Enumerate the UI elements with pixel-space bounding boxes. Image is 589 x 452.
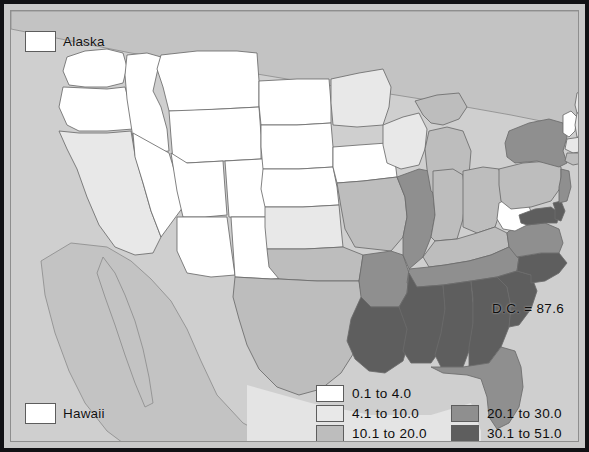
hawaii-swatch: [25, 403, 56, 424]
legend-item-1: 4.1 to 10.0: [316, 405, 427, 422]
state-NE: [261, 167, 339, 207]
legend-swatch-2: [316, 425, 344, 442]
state-PA: [499, 161, 561, 209]
state-NY: [505, 119, 567, 167]
us-choropleth-map: [11, 11, 579, 442]
state-OH: [463, 167, 503, 233]
map-figure-frame: Alaska Hawaii D.C. = 87.6 0.1 to 4.0 4.1…: [0, 0, 589, 452]
state-DE: [553, 201, 565, 221]
legend-swatch-0: [316, 385, 344, 402]
state-OR: [59, 87, 133, 131]
legend-label-0: 0.1 to 4.0: [352, 386, 411, 401]
state-WI: [383, 113, 427, 169]
legend-column-left: 0.1 to 4.0 4.1 to 10.0 10.1 to 20.0: [316, 385, 427, 442]
state-MO: [337, 177, 407, 251]
state-IN: [431, 169, 465, 241]
legend-item-2: 10.1 to 20.0: [316, 425, 427, 442]
legend-item-3: 20.1 to 30.0: [451, 405, 562, 422]
state-OK: [267, 247, 363, 281]
legend-label-1: 4.1 to 10.0: [352, 406, 419, 421]
legend-swatch-3: [451, 405, 479, 422]
legend-swatch-1: [316, 405, 344, 422]
inset-alaska: Alaska: [25, 31, 105, 52]
legend-item-0: 0.1 to 4.0: [316, 385, 427, 402]
legend-label-3: 20.1 to 30.0: [487, 406, 562, 421]
state-MN: [331, 69, 391, 127]
map-canvas: Alaska Hawaii D.C. = 87.6 0.1 to 4.0 4.1…: [10, 10, 579, 442]
dc-annotation: D.C. = 87.6: [492, 301, 564, 316]
legend-item-4: 30.1 to 51.0: [451, 425, 562, 442]
state-SD: [261, 123, 333, 169]
alaska-swatch: [25, 31, 56, 52]
legend-column-right: 20.1 to 30.0 30.1 to 51.0: [451, 385, 562, 442]
state-KS: [265, 205, 343, 249]
state-ND: [259, 79, 331, 125]
state-MA: [565, 137, 579, 153]
state-NJ: [559, 169, 571, 203]
legend-label-4: 30.1 to 51.0: [487, 426, 562, 441]
state-AZ: [177, 217, 235, 277]
state-WY: [169, 107, 261, 163]
state-TX: [233, 277, 363, 395]
inset-hawaii: Hawaii: [25, 403, 105, 424]
state-WA: [63, 49, 127, 87]
legend-swatch-4: [451, 425, 479, 442]
state-MT: [157, 51, 259, 111]
legend-label-2: 10.1 to 20.0: [352, 426, 427, 441]
map-legend: 0.1 to 4.0 4.1 to 10.0 10.1 to 20.0 20.1…: [316, 385, 562, 442]
alaska-label: Alaska: [63, 34, 105, 49]
hawaii-label: Hawaii: [63, 406, 105, 421]
state-AR: [359, 251, 409, 307]
